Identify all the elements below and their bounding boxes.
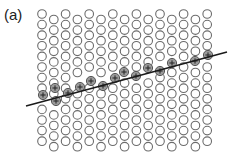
neutral-circle xyxy=(132,137,141,146)
neutral-circle xyxy=(61,126,70,135)
neutral-circle xyxy=(85,137,94,146)
neutral-circle xyxy=(156,137,165,146)
neutral-circle xyxy=(85,95,94,104)
neutral-circle xyxy=(50,68,59,77)
neutral-circle xyxy=(120,58,129,67)
charged-particle xyxy=(143,63,152,72)
neutral-circle xyxy=(132,20,141,29)
neutral-circle xyxy=(109,31,118,40)
neutral-circle xyxy=(179,116,188,125)
neutral-circle xyxy=(61,63,70,72)
neutral-circle xyxy=(50,142,59,151)
neutral-circle xyxy=(50,36,59,45)
neutral-circle xyxy=(179,42,188,51)
neutral-circle xyxy=(191,132,200,141)
neutral-circle xyxy=(73,121,82,130)
neutral-circle xyxy=(73,142,82,151)
neutral-circle xyxy=(132,52,141,61)
neutral-circle xyxy=(156,31,165,40)
neutral-circle xyxy=(120,15,129,24)
neutral-circle xyxy=(144,100,153,109)
neutral-circle xyxy=(61,105,70,114)
neutral-circle xyxy=(132,105,141,114)
neutral-circle xyxy=(85,10,94,19)
neutral-circle xyxy=(203,31,212,40)
neutral-circle xyxy=(132,95,141,104)
neutral-circle xyxy=(38,73,47,82)
neutral-circle xyxy=(132,10,141,19)
neutral-circle xyxy=(191,111,200,120)
neutral-circle xyxy=(144,132,153,141)
neutral-circle xyxy=(168,79,177,88)
neutral-circle xyxy=(168,89,177,98)
neutral-circle xyxy=(109,126,118,135)
neutral-circle xyxy=(120,111,129,120)
neutral-circle xyxy=(97,36,106,45)
neutral-circle xyxy=(144,142,153,151)
neutral-circle xyxy=(73,36,82,45)
neutral-circle xyxy=(97,111,106,120)
neutral-circle xyxy=(85,126,94,135)
neutral-circle xyxy=(203,137,212,146)
neutral-circle xyxy=(203,105,212,114)
neutral-circle xyxy=(50,47,59,56)
neutral-circle xyxy=(179,84,188,93)
neutral-circle xyxy=(191,47,200,56)
neutral-circle xyxy=(156,10,165,19)
neutral-circle xyxy=(203,116,212,125)
neutral-circle xyxy=(132,42,141,51)
lattice-diagram xyxy=(0,0,229,168)
charged-particle xyxy=(86,76,95,85)
neutral-circle xyxy=(191,100,200,109)
neutral-circle xyxy=(132,84,141,93)
neutral-circle xyxy=(97,100,106,109)
neutral-circle xyxy=(156,84,165,93)
neutral-circle xyxy=(132,31,141,40)
neutral-circle xyxy=(50,132,59,141)
neutral-circle xyxy=(168,47,177,56)
neutral-circle xyxy=(61,52,70,61)
neutral-circle xyxy=(191,79,200,88)
neutral-circle xyxy=(38,31,47,40)
neutral-circle xyxy=(97,47,106,56)
neutral-circle xyxy=(97,121,106,130)
neutral-circle xyxy=(168,100,177,109)
neutral-circle xyxy=(156,52,165,61)
neutral-circle xyxy=(179,126,188,135)
neutral-circle xyxy=(38,42,47,51)
charged-particle xyxy=(50,83,59,92)
neutral-circle xyxy=(97,68,106,77)
neutral-circle xyxy=(61,20,70,29)
neutral-circle xyxy=(168,26,177,35)
neutral-circle xyxy=(61,137,70,146)
neutral-circle xyxy=(179,20,188,29)
neutral-circle xyxy=(203,10,212,19)
neutral-circle xyxy=(50,15,59,24)
neutral-circle xyxy=(191,89,200,98)
neutral-circle xyxy=(144,79,153,88)
neutral-circle xyxy=(109,84,118,93)
neutral-circle xyxy=(97,142,106,151)
neutral-circle xyxy=(120,132,129,141)
neutral-circles xyxy=(38,10,212,151)
neutral-circle xyxy=(73,100,82,109)
charged-particle xyxy=(119,67,128,76)
neutral-circle xyxy=(109,20,118,29)
neutral-circle xyxy=(168,142,177,151)
neutral-circle xyxy=(179,95,188,104)
neutral-circle xyxy=(73,15,82,24)
neutral-circle xyxy=(38,105,47,114)
neutral-circle xyxy=(85,31,94,40)
neutral-circle xyxy=(38,126,47,135)
neutral-circle xyxy=(191,142,200,151)
neutral-circle xyxy=(61,116,70,125)
charged-circles xyxy=(38,50,212,105)
neutral-circle xyxy=(191,15,200,24)
neutral-circle xyxy=(120,36,129,45)
neutral-circle xyxy=(156,105,165,114)
neutral-circle xyxy=(156,20,165,29)
neutral-circle xyxy=(144,47,153,56)
neutral-circle xyxy=(85,63,94,72)
neutral-circle xyxy=(179,52,188,61)
neutral-circle xyxy=(156,116,165,125)
